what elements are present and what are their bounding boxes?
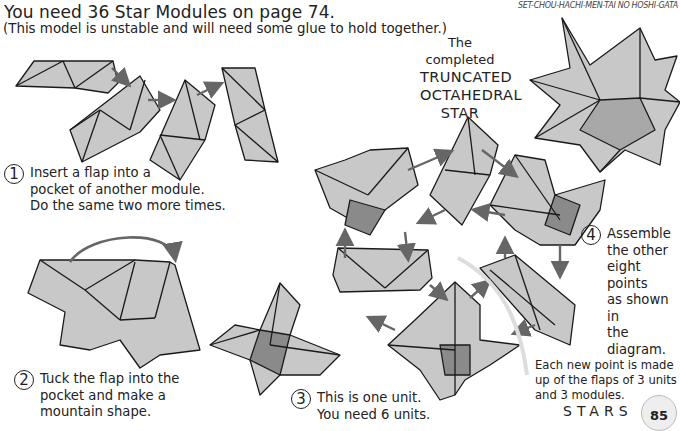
- ring-module-top: [430, 117, 498, 225]
- step-3-line: This is one unit.: [317, 390, 430, 407]
- step-3: 3 This is one unit. You need 6 units.: [291, 390, 430, 423]
- section-label: STARS: [563, 403, 633, 419]
- step-1: 1 Insert a flap into a pocket of another…: [4, 165, 226, 215]
- step-2-line: mountain shape.: [40, 404, 179, 421]
- step-1-line: Insert a flap into a: [30, 165, 226, 182]
- step-4-text: Assemble the other eight points as shown…: [607, 226, 680, 358]
- step-4-line: the other: [607, 243, 680, 260]
- step-2-line: Tuck the flap into the: [40, 371, 179, 388]
- ring-unit-bottom: [388, 282, 520, 400]
- step-2: 2 Tuck the flap into the pocket and make…: [14, 371, 179, 421]
- step-number-4: 4: [581, 225, 601, 245]
- step-4-line: as shown in: [607, 292, 680, 325]
- page-subtitle: (This model is unstable and will need so…: [3, 21, 447, 36]
- unit-folding: [28, 260, 200, 368]
- step-number-3: 3: [291, 389, 311, 409]
- completed-label: The completed TRUNCATED OCTAHEDRAL STAR: [420, 34, 500, 122]
- note-line: Each new point is made: [535, 358, 677, 373]
- step-4: 4 Assemble the other eight points as sho…: [581, 226, 680, 358]
- step-3-text: This is one unit. You need 6 units.: [317, 390, 430, 423]
- step-1-line: pocket of another module.: [30, 182, 226, 199]
- step-number-1: 1: [4, 164, 24, 184]
- step-1-text: Insert a flap into a pocket of another m…: [30, 165, 226, 215]
- step-4-line: Assemble: [607, 226, 680, 243]
- module-1d: [222, 68, 278, 162]
- ring-module-left: [333, 248, 432, 292]
- module-1a: [16, 61, 118, 93]
- completed-caption: The completed: [420, 34, 500, 68]
- model-name-line-1: TRUNCATED: [420, 68, 500, 86]
- model-name-line-2: OCTAHEDRAL: [420, 86, 500, 104]
- page-title: You need 36 Star Modules on page 74.: [4, 2, 335, 22]
- unit-pinwheel: [210, 283, 340, 395]
- step-4-line: eight points: [607, 259, 680, 292]
- page-number: 85: [650, 408, 668, 423]
- note-line: up of the flaps of 3 units: [535, 373, 677, 388]
- step-1-line: Do the same two more times.: [30, 198, 226, 215]
- step-2-line: pocket and make a: [40, 388, 179, 405]
- japanese-model-name: SET-CHOU-HACHI-MEN-TAI NO HOSHI-GATA: [518, 1, 678, 10]
- step-4-line: the diagram.: [607, 325, 680, 358]
- step-3-line: You need 6 units.: [317, 407, 430, 424]
- ring-unit-top-left: [315, 148, 418, 235]
- step-2-text: Tuck the flap into the pocket and make a…: [40, 371, 179, 421]
- page-number-badge: 85: [641, 395, 677, 431]
- completed-star: [530, 18, 680, 172]
- model-name-line-3: STAR: [420, 104, 500, 122]
- step-number-2: 2: [14, 370, 34, 390]
